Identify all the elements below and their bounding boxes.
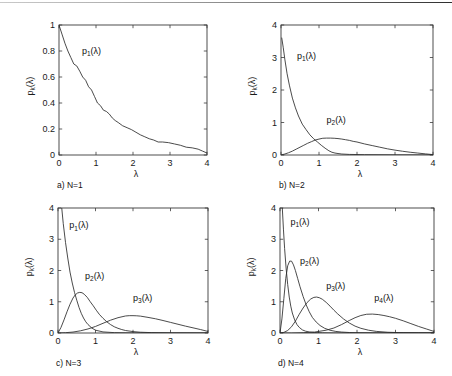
x-axis-title-b: λ xyxy=(358,169,363,179)
y-tick-label: 0 xyxy=(49,328,54,338)
x-tick-label: 3 xyxy=(167,158,172,168)
curve-d-p3 xyxy=(280,297,434,333)
chart-panel-d: 0123401234p1(λ)p2(λ)p3(λ)p4(λ)λpk(λ)d) N… xyxy=(226,188,452,376)
x-axis-title-d: λ xyxy=(358,347,363,357)
y-tick-label: 1 xyxy=(49,297,54,307)
curve-a-p1 xyxy=(59,25,207,153)
y-tick-label: 1 xyxy=(271,297,276,307)
x-tick-label: 2 xyxy=(354,336,359,346)
x-tick-label: 2 xyxy=(130,158,135,168)
x-axis-title-c: λ xyxy=(134,347,139,357)
x-tick-label: 4 xyxy=(204,158,209,168)
y-axis-title-c: pk(λ) xyxy=(24,257,35,276)
y-axis-title-d: pk(λ) xyxy=(246,257,257,276)
x-axis-title-a: λ xyxy=(134,169,139,179)
x-tick-label: 4 xyxy=(431,336,436,346)
x-tick-label: 0 xyxy=(277,336,282,346)
y-tick-label: 0.4 xyxy=(42,98,55,108)
x-tick-label: 3 xyxy=(393,336,398,346)
y-tick-label: 0.2 xyxy=(42,124,55,134)
x-tick-label: 0 xyxy=(55,336,60,346)
x-tick-label: 4 xyxy=(205,336,210,346)
x-tick-label: 1 xyxy=(93,336,98,346)
y-tick-label: 0 xyxy=(271,328,276,338)
x-tick-label: 0 xyxy=(278,158,283,168)
plot-frame-a xyxy=(59,25,207,155)
y-tick-label: 2 xyxy=(272,85,277,95)
x-tick-label: 1 xyxy=(93,158,98,168)
y-tick-label: 3 xyxy=(271,234,276,244)
x-tick-label: 3 xyxy=(168,336,173,346)
curve-label-c-p2: p2(λ) xyxy=(85,271,104,282)
y-tick-label: 0 xyxy=(50,150,55,160)
x-tick-label: 0 xyxy=(56,158,61,168)
curve-label-d-p3: p3(λ) xyxy=(326,281,345,292)
x-tick-label: 2 xyxy=(130,336,135,346)
curve-d-p2 xyxy=(280,261,434,333)
y-tick-label: 4 xyxy=(49,203,54,213)
curve-label-b-p1: p1(λ) xyxy=(297,51,316,62)
plot-frame-b xyxy=(281,25,433,155)
x-tick-label: 2 xyxy=(354,158,359,168)
curve-label-a-p1: p1(λ) xyxy=(82,46,101,57)
y-tick-label: 3 xyxy=(272,53,277,63)
y-tick-label: 4 xyxy=(272,20,277,30)
curve-label-d-p1: p1(λ) xyxy=(290,217,309,228)
y-tick-label: 0.6 xyxy=(42,72,55,82)
x-tick-label: 1 xyxy=(316,158,321,168)
chart-panel-b: 0123401234p1(λ)p2(λ)λpk(λ)b) N=2 xyxy=(226,0,452,188)
y-tick-label: 1 xyxy=(272,118,277,128)
y-tick-label: 4 xyxy=(271,203,276,213)
x-tick-label: 1 xyxy=(316,336,321,346)
panel-caption-d: d) N=4 xyxy=(278,358,304,368)
curve-label-c-p3: p3(λ) xyxy=(133,293,152,304)
chart-panel-c: 0123401234p1(λ)p2(λ)p3(λ)λpk(λ)c) N=3 xyxy=(0,188,226,376)
x-tick-label: 4 xyxy=(430,158,435,168)
y-tick-label: 0 xyxy=(272,150,277,160)
y-axis-title-b: pk(λ) xyxy=(247,77,258,96)
chart-panel-a: 0123400.20.40.60.81p1(λ)λpk(λ)a) N=1 xyxy=(0,0,226,188)
y-tick-label: 0.8 xyxy=(42,46,55,56)
y-axis-title-a: pk(λ) xyxy=(25,77,36,96)
y-tick-label: 1 xyxy=(50,20,55,30)
y-tick-label: 3 xyxy=(49,234,54,244)
x-tick-label: 3 xyxy=(392,158,397,168)
curve-label-b-p2: p2(λ) xyxy=(327,115,346,126)
figure-canvas: 0123400.20.40.60.81p1(λ)λpk(λ)a) N=10123… xyxy=(0,0,452,376)
panel-caption-c: c) N=3 xyxy=(56,358,82,368)
curve-label-c-p1: p1(λ) xyxy=(69,220,88,231)
curve-label-d-p4: p4(λ) xyxy=(374,293,393,304)
y-tick-label: 2 xyxy=(49,266,54,276)
curve-label-d-p2: p2(λ) xyxy=(300,256,319,267)
y-tick-label: 2 xyxy=(271,266,276,276)
